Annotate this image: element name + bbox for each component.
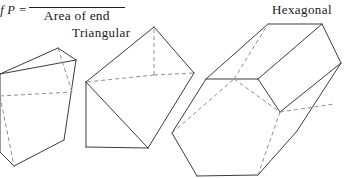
hexagonal-prism-right-edge xyxy=(172,133,197,176)
hexagonal-prism-right-edge xyxy=(258,24,322,79)
hexagonal-prism-right-edge xyxy=(172,79,206,133)
label-triangular: Triangular xyxy=(72,25,130,41)
formula-fraction: Area of end xyxy=(29,0,125,23)
hidden-edge-group xyxy=(0,24,334,175)
triangular-prism-middle-edge xyxy=(86,82,148,148)
hexagonal-prism-right-edge xyxy=(234,24,268,79)
triangular-prism-left-edge xyxy=(58,48,72,92)
triangular-prism-left-edge xyxy=(0,92,72,96)
prism-figure: h of P = Area of end Triangular Hexagona… xyxy=(0,0,349,178)
triangular-prism-left-edge xyxy=(58,48,76,60)
label-hexagonal: Hexagonal xyxy=(272,2,332,18)
hexagonal-prism-right-edge xyxy=(258,79,280,112)
triangular-prism-left-edge xyxy=(14,140,64,166)
triangular-prism-middle-edge xyxy=(86,147,148,148)
hexagonal-prism-right-edge xyxy=(258,112,280,175)
prism-formula: h of P = Area of end xyxy=(0,0,125,23)
hexagonal-prism-right-edge xyxy=(206,24,268,79)
formula-denominator: Area of end xyxy=(44,8,110,23)
hexagonal-prism-right-edge xyxy=(197,175,258,176)
triangular-prism-middle-edge xyxy=(86,75,154,82)
hexagonal-prism-right-edge xyxy=(322,24,341,63)
hexagonal-prism-right-edge xyxy=(234,79,280,112)
formula-left-hand-side: h of P = xyxy=(0,2,29,18)
triangular-prism-middle-edge xyxy=(154,73,194,75)
triangular-prism-left-edge xyxy=(0,48,58,74)
prism-line-art xyxy=(0,0,349,178)
visible-edge-group xyxy=(0,24,341,176)
triangular-prism-left-edge xyxy=(64,60,76,140)
hexagonal-prism-right-edge xyxy=(258,131,297,175)
triangular-prism-middle-edge xyxy=(154,27,194,73)
hexagonal-prism-right-edge xyxy=(297,63,341,131)
triangular-prism-middle-edge xyxy=(148,73,194,148)
hexagonal-prism-right-edge xyxy=(172,79,234,133)
triangular-prism-left-edge xyxy=(0,60,76,74)
triangular-prism-left-edge xyxy=(0,96,14,166)
